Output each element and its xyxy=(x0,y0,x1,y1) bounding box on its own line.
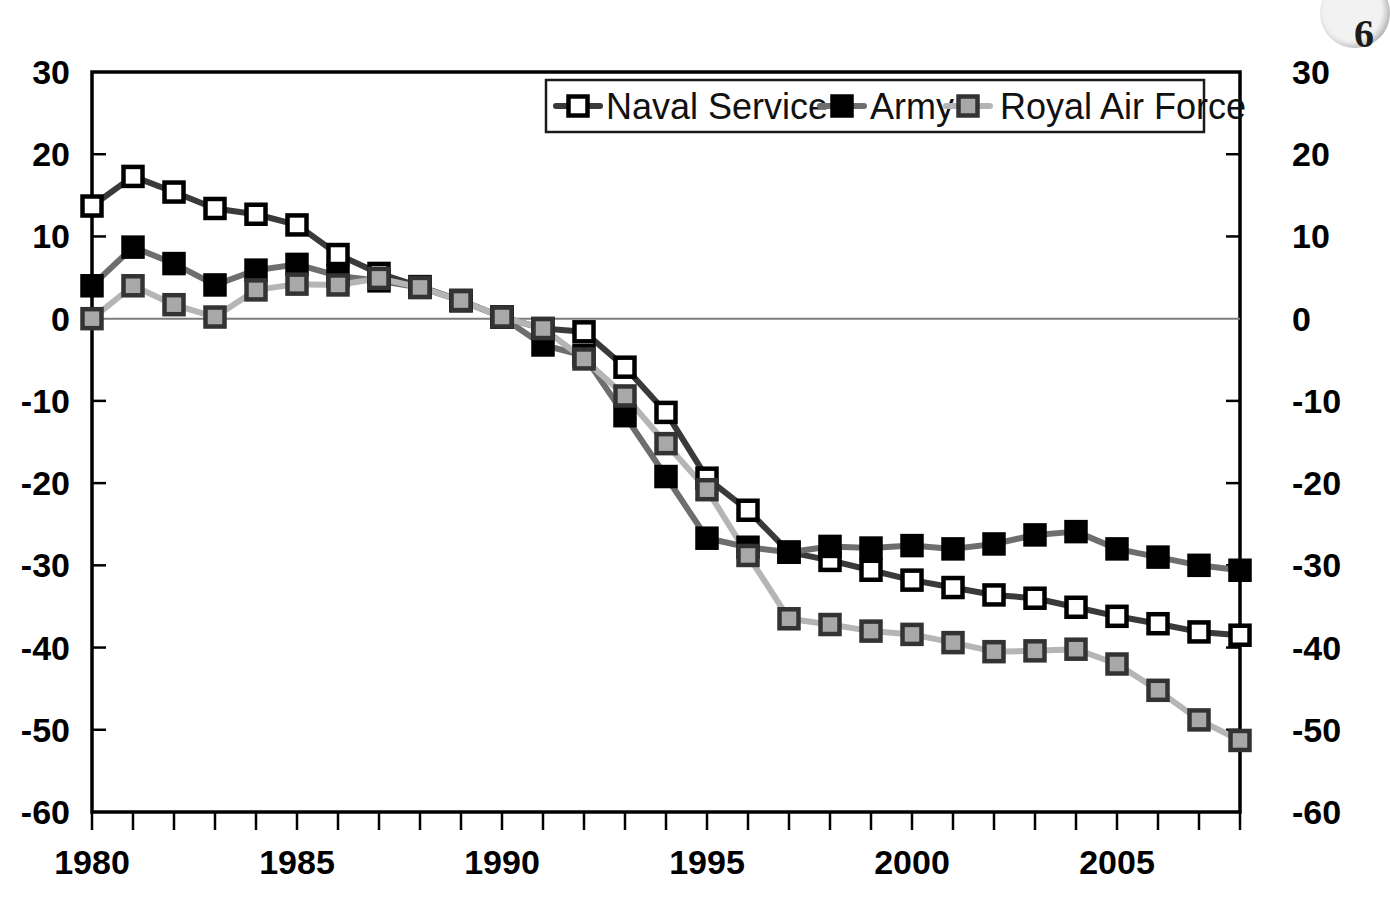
data-point-marker xyxy=(616,358,635,377)
legend-label-1: Army xyxy=(870,86,954,127)
data-point-marker xyxy=(575,322,594,341)
data-point-marker xyxy=(1067,598,1086,617)
data-point-marker xyxy=(657,467,676,486)
y-axis-label-right: 0 xyxy=(1292,300,1311,338)
data-point-marker xyxy=(1149,548,1168,567)
data-point-marker xyxy=(616,386,635,405)
data-point-marker xyxy=(534,319,553,338)
data-point-marker xyxy=(944,633,963,652)
y-axis-label-right: -10 xyxy=(1292,382,1341,420)
y-axis-label-left: -40 xyxy=(21,629,70,667)
data-point-marker xyxy=(288,215,307,234)
x-axis-label: 1985 xyxy=(259,843,335,881)
data-point-marker xyxy=(780,609,799,628)
data-point-marker xyxy=(370,269,389,288)
x-axis-label: 1990 xyxy=(464,843,540,881)
data-point-marker xyxy=(862,561,881,580)
data-point-marker xyxy=(903,571,922,590)
x-tick-marks-layer xyxy=(92,812,1240,830)
y-axis-label-left: -30 xyxy=(21,546,70,584)
data-point-marker xyxy=(329,275,348,294)
data-point-marker xyxy=(1108,655,1127,674)
data-point-marker xyxy=(575,349,594,368)
data-point-marker xyxy=(206,275,225,294)
data-point-marker xyxy=(83,276,102,295)
y-axis-label-left: -20 xyxy=(21,464,70,502)
page-number-glyph: 6 xyxy=(1354,10,1372,57)
data-point-marker xyxy=(616,406,635,425)
y-axis-label-right: -60 xyxy=(1292,793,1341,831)
data-point-marker xyxy=(944,578,963,597)
y-axis-label-right: 10 xyxy=(1292,217,1330,255)
data-point-marker xyxy=(739,501,758,520)
data-point-marker xyxy=(862,539,881,558)
y-axis-label-left: -50 xyxy=(21,711,70,749)
data-point-marker xyxy=(1067,522,1086,541)
data-point-marker xyxy=(247,280,266,299)
data-point-marker xyxy=(944,539,963,558)
y-axis-label-left: 20 xyxy=(32,135,70,173)
data-point-marker xyxy=(1108,539,1127,558)
series-markers-layer xyxy=(83,167,1250,750)
data-point-marker xyxy=(862,622,881,641)
data-point-marker xyxy=(1108,607,1127,626)
y-axis-label-left: 10 xyxy=(32,217,70,255)
legend-marker-swatch xyxy=(959,97,978,116)
y-axis-label-right: -20 xyxy=(1292,464,1341,502)
data-point-marker xyxy=(780,543,799,562)
data-point-marker xyxy=(657,434,676,453)
data-point-marker xyxy=(329,245,348,264)
data-point-marker xyxy=(657,403,676,422)
x-axis-label: 1980 xyxy=(54,843,130,881)
data-point-marker xyxy=(985,585,1004,604)
data-point-marker xyxy=(206,199,225,218)
data-point-marker xyxy=(83,197,102,216)
legend: Naval ServiceArmyRoyal Air Force xyxy=(546,80,1246,132)
data-point-marker xyxy=(165,183,184,202)
legend-label-0: Naval Service xyxy=(606,86,828,127)
data-point-marker xyxy=(1026,641,1045,660)
data-point-marker xyxy=(698,529,717,548)
data-point-marker xyxy=(83,309,102,328)
data-point-marker xyxy=(985,534,1004,553)
data-point-marker xyxy=(1231,561,1250,580)
data-point-marker xyxy=(493,308,512,327)
x-axis-label: 2000 xyxy=(874,843,950,881)
legend-marker-swatch xyxy=(569,97,588,116)
data-point-marker xyxy=(1231,731,1250,750)
data-point-marker xyxy=(1190,622,1209,641)
data-point-marker xyxy=(985,642,1004,661)
y-axis-label-left: -10 xyxy=(21,382,70,420)
data-point-marker xyxy=(165,254,184,273)
data-point-marker xyxy=(1067,640,1086,659)
data-point-marker xyxy=(821,615,840,634)
data-point-marker xyxy=(1190,710,1209,729)
data-point-marker xyxy=(1026,589,1045,608)
data-point-marker xyxy=(452,291,471,310)
data-point-marker xyxy=(206,308,225,327)
data-point-marker xyxy=(698,480,717,499)
y-axis-label-right: -40 xyxy=(1292,629,1341,667)
data-point-marker xyxy=(1149,681,1168,700)
data-point-marker xyxy=(165,295,184,314)
legend-label-2: Royal Air Force xyxy=(1000,86,1246,127)
data-point-marker xyxy=(288,255,307,274)
data-point-marker xyxy=(903,536,922,555)
data-point-marker xyxy=(124,167,143,186)
data-point-marker xyxy=(821,537,840,556)
x-axis-label: 2005 xyxy=(1079,843,1155,881)
data-point-marker xyxy=(411,278,430,297)
y-axis-label-left: -60 xyxy=(21,793,70,831)
data-point-marker xyxy=(739,546,758,565)
y-axis-labels-right: 3020100-10-20-30-40-50-60 xyxy=(1292,53,1341,831)
series-line-2 xyxy=(92,278,1240,740)
y-axis-label-right: -50 xyxy=(1292,711,1341,749)
data-point-marker xyxy=(124,238,143,257)
data-point-marker xyxy=(288,275,307,294)
data-point-marker xyxy=(124,276,143,295)
data-point-marker xyxy=(903,625,922,644)
data-point-marker xyxy=(1190,556,1209,575)
y-axis-label-right: 20 xyxy=(1292,135,1330,173)
y-axis-labels-left: 3020100-10-20-30-40-50-60 xyxy=(21,53,70,831)
